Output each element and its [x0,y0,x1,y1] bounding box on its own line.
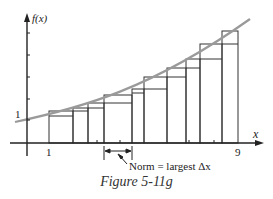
upper-rectangle-6 [144,77,167,143]
y-axis-label: f(x) [32,12,48,25]
y-tick-label-1: 1 [15,108,21,120]
riemann-sum-figure: f(x) 1 x 1 9 Norm = largest Δx [0,0,273,199]
norm-indicator [104,146,132,164]
riemann-rectangles [49,31,238,143]
norm-annotation: Norm = largest Δx [129,160,211,172]
figure-caption: Figure 5-11g [0,174,273,190]
upper-rectangle-7 [167,68,186,143]
upper-rectangle-10 [222,31,238,143]
upper-rectangle-3 [88,103,104,143]
upper-rectangle-5 [132,89,144,143]
upper-rectangle-2 [73,108,88,143]
x-tick-label-1: 1 [46,146,52,158]
upper-rectangle-4 [104,95,132,143]
y-axis-arrow-icon [24,13,30,22]
upper-rectangle-8 [186,59,200,143]
x-axis-label: x [252,127,259,141]
x-tick-label-9: 9 [235,146,241,158]
